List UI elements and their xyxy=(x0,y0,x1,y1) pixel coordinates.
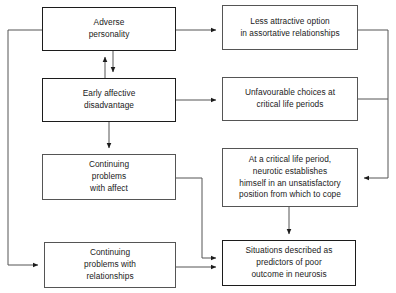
node-early-affective-disadvantage-label: Early affective disadvantage xyxy=(80,88,139,112)
node-continuing-problems-relationships[interactable]: Continuing problems with relationships xyxy=(44,242,176,288)
node-continuing-problems-relationships-label: Continuing problems with relationships xyxy=(81,247,139,282)
node-situations-described[interactable]: Situations described as predictors of po… xyxy=(222,240,356,286)
node-situations-described-label: Situations described as predictors of po… xyxy=(243,245,336,280)
edge-affect-to-situations xyxy=(176,178,216,258)
edge-less-attractive-to-critical xyxy=(358,30,388,178)
node-unfavourable-choices-label: Unfavourable choices at critical life pe… xyxy=(242,87,338,111)
node-continuing-problems-affect-label: Continuing problems with affect xyxy=(86,159,132,194)
node-critical-life-period[interactable]: At a critical life period, neurotic esta… xyxy=(222,148,358,207)
node-early-affective-disadvantage[interactable]: Early affective disadvantage xyxy=(42,78,176,122)
node-critical-life-period-label: At a critical life period, neurotic esta… xyxy=(236,154,344,201)
node-adverse-personality-label: Adverse personality xyxy=(86,17,133,41)
edge-adverse-to-relationships-feedback xyxy=(8,30,42,265)
node-continuing-problems-affect[interactable]: Continuing problems with affect xyxy=(42,154,176,200)
node-less-attractive-option[interactable]: Less attractive option in assortative re… xyxy=(222,5,358,50)
node-less-attractive-option-label: Less attractive option in assortative re… xyxy=(237,16,342,40)
flowchart-diagram: Adverse personality Less attractive opti… xyxy=(0,0,396,293)
node-unfavourable-choices[interactable]: Unfavourable choices at critical life pe… xyxy=(222,77,358,121)
node-adverse-personality[interactable]: Adverse personality xyxy=(42,7,176,51)
